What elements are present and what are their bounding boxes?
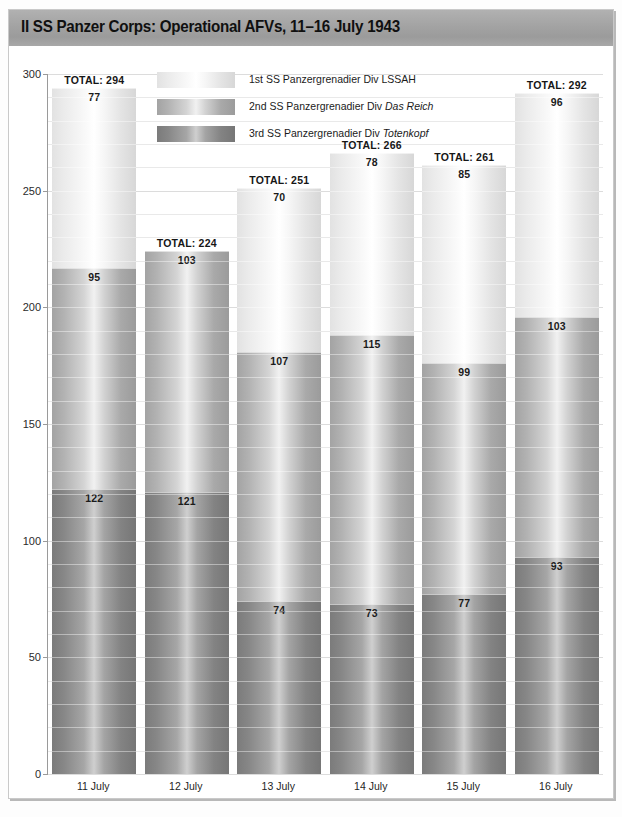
x-axis-label: 13 July — [228, 780, 328, 792]
bar-segment-s2[interactable]: 99 — [422, 363, 506, 594]
bar-segment-value: 85 — [422, 168, 506, 180]
bar-segment-value: 121 — [145, 495, 229, 507]
x-axis-label: 16 July — [506, 780, 606, 792]
x-axis-label: 11 July — [43, 780, 143, 792]
bar-16-july[interactable]: 9610393TOTAL: 292 — [515, 93, 599, 774]
bar-total-label: TOTAL: 292 — [501, 79, 613, 91]
bar-15-july[interactable]: 859977TOTAL: 261 — [422, 165, 506, 774]
bar-segment-s3[interactable]: 93 — [515, 557, 599, 774]
bar-segment-s1[interactable]: 85 — [422, 165, 506, 363]
gridline-major — [48, 774, 603, 775]
legend-label-totenkopf: 3rd SS Panzergrenadier Div Totenkopf — [249, 127, 428, 139]
y-tick-mark — [43, 774, 47, 775]
legend-label-lssah: 1st SS Panzergrenadier Div LSSAH — [249, 73, 416, 85]
legend-item-totenkopf: 3rd SS Panzergrenadier Div Totenkopf — [157, 126, 427, 147]
bar-segment-value: 96 — [515, 96, 599, 108]
bar-segment-value: 70 — [237, 191, 321, 203]
y-tick-mark — [43, 541, 47, 542]
legend-item-lssah: 1st SS Panzergrenadier Div LSSAH — [157, 72, 427, 93]
bar-segment-s1[interactable]: 78 — [330, 153, 414, 335]
x-axis-label: 15 July — [413, 780, 513, 792]
bar-segment-s2[interactable]: 103 — [145, 251, 229, 491]
bar-segment-value: 77 — [52, 91, 136, 103]
legend-label-das-reich: 2nd SS Panzergrenadier Div Das Reich — [249, 100, 433, 112]
x-axis-label: 14 July — [321, 780, 421, 792]
y-tick-label: 200 — [23, 301, 41, 313]
bar-total-label: TOTAL: 294 — [38, 74, 150, 86]
chart-title-bar: II SS Panzer Corps: Operational AFVs, 11… — [9, 10, 613, 46]
bar-segment-s2[interactable]: 95 — [52, 268, 136, 490]
bar-group: 7795122TOTAL: 294103121TOTAL: 2247010774… — [48, 74, 603, 774]
bar-segment-s2[interactable]: 107 — [237, 352, 321, 602]
bar-segment-value: 99 — [422, 366, 506, 378]
bar-segment-s1[interactable]: 70 — [237, 188, 321, 351]
y-tick-mark — [43, 307, 47, 308]
bar-13-july[interactable]: 7010774TOTAL: 251 — [237, 188, 321, 774]
bar-segment-value: 93 — [515, 560, 599, 572]
y-tick-label: 100 — [23, 535, 41, 547]
legend-swatch-icon-das-reich — [157, 99, 235, 115]
chart-legend: 1st SS Panzergrenadier Div LSSAH 2nd SS … — [157, 72, 427, 153]
bar-segment-value: 122 — [52, 492, 136, 504]
bar-segment-value: 77 — [422, 597, 506, 609]
bar-segment-s3[interactable]: 77 — [422, 594, 506, 774]
bar-segment-value: 115 — [330, 338, 414, 350]
chart-frame: II SS Panzer Corps: Operational AFVs, 11… — [8, 9, 614, 799]
bar-segment-s1[interactable]: 77 — [52, 88, 136, 268]
bar-segment-s2[interactable]: 115 — [330, 335, 414, 603]
bar-segment-s3[interactable]: 122 — [52, 489, 136, 774]
bar-segment-value: 107 — [237, 355, 321, 367]
bar-total-label: TOTAL: 251 — [223, 174, 335, 186]
bar-11-july[interactable]: 7795122TOTAL: 294 — [52, 88, 136, 774]
y-tick-label: 0 — [35, 768, 41, 780]
chart-axes: 050100150200250300 7795122TOTAL: 2941031… — [47, 74, 603, 774]
legend-swatch-icon-lssah — [157, 72, 235, 88]
y-tick-mark — [43, 657, 47, 658]
legend-item-das-reich: 2nd SS Panzergrenadier Div Das Reich — [157, 99, 427, 120]
bar-segment-value: 95 — [52, 271, 136, 283]
bar-segment-s3[interactable]: 74 — [237, 601, 321, 774]
bar-segment-value: 103 — [145, 254, 229, 266]
y-tick-label: 250 — [23, 185, 41, 197]
bar-segment-value: 74 — [237, 604, 321, 616]
bar-segment-s2[interactable]: 103 — [515, 317, 599, 557]
bar-segment-value: 73 — [330, 607, 414, 619]
bar-segment-value: 103 — [515, 320, 599, 332]
chart-page: II SS Panzer Corps: Operational AFVs, 11… — [0, 0, 622, 817]
legend-swatch-icon-totenkopf — [157, 126, 235, 142]
y-tick-label: 50 — [29, 651, 41, 663]
page-title: II SS Panzer Corps: Operational AFVs, 11… — [21, 17, 400, 36]
bar-segment-s3[interactable]: 121 — [145, 492, 229, 774]
bar-total-label: TOTAL: 224 — [131, 237, 243, 249]
plot-area: 050100150200250300 7795122TOTAL: 2941031… — [9, 46, 613, 798]
y-tick-mark — [43, 424, 47, 425]
y-tick-mark — [43, 191, 47, 192]
bar-12-july[interactable]: 103121TOTAL: 224 — [145, 251, 229, 774]
x-axis-label: 12 July — [136, 780, 236, 792]
bar-segment-s3[interactable]: 73 — [330, 604, 414, 774]
y-tick-label: 150 — [23, 418, 41, 430]
bar-14-july[interactable]: 7811573TOTAL: 266 — [330, 153, 414, 774]
bar-segment-value: 78 — [330, 156, 414, 168]
bar-segment-s1[interactable]: 96 — [515, 93, 599, 317]
